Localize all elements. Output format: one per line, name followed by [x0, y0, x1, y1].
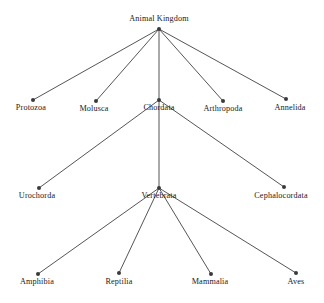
- tree-node-dot-arthropoda[interactable]: [221, 99, 225, 103]
- tree-node-cephalocordata[interactable]: Cephalocordata: [254, 191, 307, 201]
- tree-node-label-urochorda: Urochorda: [19, 191, 55, 201]
- tree-node-label-protozoa: Protozoa: [16, 103, 46, 113]
- tree-node-label-reptilia: Reptilia: [105, 277, 132, 287]
- tree-node-dot-urochorda[interactable]: [37, 186, 41, 190]
- tree-node-annelida[interactable]: Annelida: [274, 103, 305, 113]
- tree-node-dot-molusca[interactable]: [94, 99, 98, 103]
- tree-node-arthropoda[interactable]: Arthropoda: [203, 104, 242, 114]
- tree-node-dot-chordata[interactable]: [157, 98, 161, 102]
- tree-edge-animal-kingdom-to-molusca: [96, 29, 159, 101]
- tree-node-urochorda[interactable]: Urochorda: [19, 191, 55, 201]
- tree-node-protozoa[interactable]: Protozoa: [16, 103, 46, 113]
- tree-node-label-animal-kingdom: Animal Kingdom: [129, 14, 189, 24]
- tree-node-dot-aves[interactable]: [294, 271, 298, 275]
- tree-node-dot-vertebrata[interactable]: [157, 186, 161, 190]
- edge-layer: [0, 0, 324, 303]
- tree-node-reptilia[interactable]: Reptilia: [105, 277, 132, 287]
- tree-node-dot-reptilia[interactable]: [117, 271, 121, 275]
- tree-edge-animal-kingdom-to-arthropoda: [159, 29, 223, 101]
- tree-node-label-molusca: Molusca: [79, 104, 108, 114]
- tree-node-label-vertebrata: Vertebrata: [141, 191, 176, 201]
- tree-node-molusca[interactable]: Molusca: [79, 104, 108, 114]
- tree-node-chordata[interactable]: Chordata: [143, 103, 174, 113]
- tree-node-dot-amphibia[interactable]: [36, 272, 40, 276]
- tree-node-animal-kingdom[interactable]: Animal Kingdom: [129, 14, 189, 24]
- tree-node-dot-cephalocordata[interactable]: [282, 185, 286, 189]
- tree-edge-animal-kingdom-to-annelida: [159, 29, 286, 99]
- tree-node-label-chordata: Chordata: [143, 103, 174, 113]
- tree-node-amphibia[interactable]: Amphibia: [20, 277, 54, 287]
- tree-edge-animal-kingdom-to-protozoa: [33, 29, 159, 100]
- tree-node-aves[interactable]: Aves: [288, 277, 305, 287]
- tree-node-label-mammalia: Mammalia: [192, 277, 229, 287]
- tree-node-label-aves: Aves: [288, 277, 305, 287]
- tree-node-label-amphibia: Amphibia: [20, 277, 54, 287]
- tree-node-label-cephalocordata: Cephalocordata: [254, 191, 307, 201]
- tree-node-label-arthropoda: Arthropoda: [203, 104, 242, 114]
- tree-node-dot-animal-kingdom[interactable]: [157, 27, 161, 31]
- tree-node-dot-mammalia[interactable]: [209, 272, 213, 276]
- tree-node-vertebrata[interactable]: Vertebrata: [141, 191, 176, 201]
- tree-node-label-annelida: Annelida: [274, 103, 305, 113]
- tree-node-mammalia[interactable]: Mammalia: [192, 277, 229, 287]
- tree-node-dot-protozoa[interactable]: [31, 98, 35, 102]
- tree-node-dot-annelida[interactable]: [284, 97, 288, 101]
- classification-tree-diagram: Animal KingdomProtozoaMoluscaChordataArt…: [0, 0, 324, 303]
